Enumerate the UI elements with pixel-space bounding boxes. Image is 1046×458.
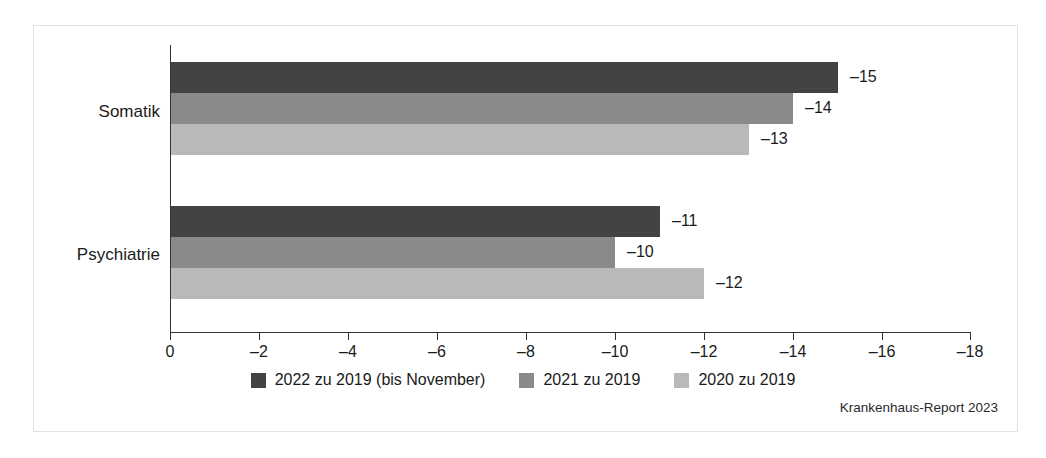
x-tick-label-9: –18 bbox=[940, 343, 1000, 361]
x-tick-mark-2 bbox=[348, 333, 349, 340]
legend-label-2020: 2020 zu 2019 bbox=[698, 371, 795, 389]
x-tick-label-8: –16 bbox=[852, 343, 912, 361]
legend-item-2020[interactable]: 2020 zu 2019 bbox=[674, 371, 795, 389]
category-label-psychiatrie: Psychiatrie bbox=[10, 245, 160, 265]
bar-psychiatrie-2021[interactable] bbox=[171, 237, 615, 268]
bar-somatik-2020[interactable] bbox=[171, 124, 749, 155]
figure: 0 –2 –4 –6 –8 –10 –12 –14 –16 –18 Somati… bbox=[0, 0, 1046, 458]
x-tick-label-3: –6 bbox=[407, 343, 467, 361]
bar-somatik-2021[interactable] bbox=[171, 93, 793, 124]
legend-label-2022: 2022 zu 2019 (bis November) bbox=[275, 371, 486, 389]
bar-value-label-psychiatrie-2021: –10 bbox=[627, 243, 654, 261]
x-tick-mark-0 bbox=[170, 333, 171, 340]
legend-swatch-icon-2020 bbox=[674, 373, 689, 388]
bar-value-label-somatik-2021: –14 bbox=[805, 99, 832, 117]
legend-swatch-icon-2021 bbox=[519, 373, 534, 388]
plot-area: 0 –2 –4 –6 –8 –10 –12 –14 –16 –18 Somati… bbox=[0, 0, 1046, 458]
x-tick-mark-6 bbox=[704, 333, 705, 340]
legend-label-2021: 2021 zu 2019 bbox=[543, 371, 640, 389]
legend-item-2021[interactable]: 2021 zu 2019 bbox=[519, 371, 640, 389]
source-note: Krankenhaus-Report 2023 bbox=[840, 400, 998, 415]
chart-legend: 2022 zu 2019 (bis November) 2021 zu 2019… bbox=[0, 371, 1046, 389]
x-tick-label-4: –8 bbox=[496, 343, 556, 361]
bar-value-label-psychiatrie-2022: –11 bbox=[672, 212, 698, 230]
bar-value-label-somatik-2020: –13 bbox=[761, 130, 788, 148]
legend-swatch-icon-2022 bbox=[251, 373, 266, 388]
x-tick-mark-8 bbox=[882, 333, 883, 340]
legend-item-2022[interactable]: 2022 zu 2019 (bis November) bbox=[251, 371, 486, 389]
value-axis-line bbox=[170, 332, 971, 333]
x-tick-mark-4 bbox=[526, 333, 527, 340]
category-label-somatik: Somatik bbox=[10, 102, 160, 122]
x-tick-label-1: –2 bbox=[229, 343, 289, 361]
x-tick-label-5: –10 bbox=[585, 343, 645, 361]
x-tick-label-6: –12 bbox=[674, 343, 734, 361]
x-tick-mark-3 bbox=[437, 333, 438, 340]
bar-value-label-somatik-2022: –15 bbox=[850, 68, 877, 86]
bar-psychiatrie-2020[interactable] bbox=[171, 268, 704, 299]
x-tick-label-2: –4 bbox=[318, 343, 378, 361]
bar-psychiatrie-2022[interactable] bbox=[171, 206, 660, 237]
x-tick-mark-5 bbox=[615, 333, 616, 340]
bar-value-label-psychiatrie-2020: –12 bbox=[716, 274, 743, 292]
x-tick-mark-9 bbox=[970, 333, 971, 340]
bar-somatik-2022[interactable] bbox=[171, 62, 838, 93]
x-tick-label-7: –14 bbox=[763, 343, 823, 361]
x-tick-mark-1 bbox=[259, 333, 260, 340]
x-tick-mark-7 bbox=[793, 333, 794, 340]
x-tick-label-0: 0 bbox=[140, 343, 200, 361]
